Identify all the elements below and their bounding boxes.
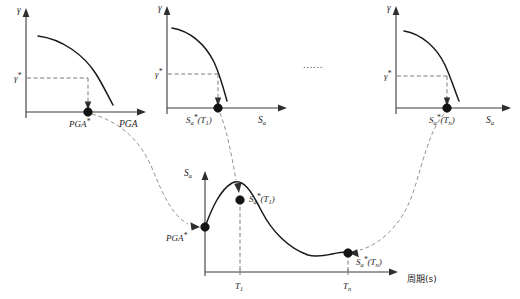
spectrum-point-label-satn: Sa*(Tn) (356, 255, 382, 269)
figure-root: γ PGA γ* PGA* γ Sa γ* (0, 0, 520, 299)
fragility-curve-sa-tn (404, 31, 459, 101)
panel-pga-y-axis-arrowhead (23, 8, 30, 17)
svg-text:γ*: γ* (14, 71, 22, 83)
panel-pga-x-axis-label: PGA (118, 119, 138, 129)
panel-pga-x-axis-arrowhead (137, 109, 146, 116)
svg-text:PGA*: PGA* (165, 231, 188, 243)
spectrum-y-axis-arrowhead (202, 171, 209, 180)
svg-text:Sa*(T1): Sa*(T1) (249, 192, 275, 206)
svg-text:Tn: Tn (343, 281, 351, 292)
panel-sa-tn-x-axis-label: Sa (486, 115, 494, 126)
spectrum-x-axis-label: 周期(s) (407, 274, 437, 284)
spectrum-point-label-pga: PGA* (165, 231, 188, 243)
marker-dot-spectrum-satn (344, 249, 353, 258)
panel-sa-tn-threshold-label: γ* (384, 69, 392, 81)
spectrum-x-axis-arrowhead (389, 269, 398, 276)
connector-satn-to-spectrum (349, 114, 444, 257)
diagram-canvas: γ PGA γ* PGA* γ Sa γ* (0, 0, 520, 299)
marker-dot-spectrum-sat1 (236, 196, 245, 205)
connector-path-satn (360, 114, 444, 250)
svg-text:Sa: Sa (184, 168, 192, 179)
svg-text:Sa: Sa (258, 115, 266, 126)
panel-sa-t1-point-label: Sa*(T1) (186, 113, 212, 127)
svg-text:T1: T1 (235, 281, 243, 292)
spectrum-curve (205, 182, 348, 256)
panel-sa-tn-point-label: Sa*(Tn) (429, 113, 455, 127)
svg-text:Sa*(Tn): Sa*(Tn) (429, 113, 455, 127)
svg-text:γ*: γ* (155, 67, 163, 79)
panel-sa-tn-x-axis-arrowhead (502, 105, 511, 112)
panel-pga: γ PGA γ* PGA* (14, 5, 146, 129)
svg-text:Sa*(Tn): Sa*(Tn) (356, 255, 382, 269)
marker-dot-sa-tn (443, 104, 452, 113)
connector-arrowhead-pga (190, 222, 200, 230)
panel-pga-y-axis-label: γ (17, 5, 21, 15)
spectrum-tick-label-t1: T1 (235, 281, 243, 292)
connector-path-pga (92, 114, 188, 224)
panel-sa-tn-y-axis-arrowhead (393, 6, 400, 15)
spectrum-point-label-sat1: Sa*(T1) (249, 192, 275, 206)
panel-sa-t1-y-axis-label: γ (158, 3, 162, 13)
connector-arrowhead-sat1 (234, 183, 242, 194)
marker-dot-sa-t1 (214, 104, 223, 113)
panel-sa-t1-x-axis-label: Sa (258, 115, 266, 126)
panel-pga-point-label: PGA* (68, 117, 91, 129)
panel-sa-t1-y-axis-arrowhead (164, 6, 171, 15)
panel-sa-t1-x-axis-arrowhead (278, 105, 287, 112)
connector-path-sat1 (220, 113, 236, 180)
svg-text:Sa: Sa (486, 115, 494, 126)
svg-text:Sa*(T1): Sa*(T1) (186, 113, 212, 127)
spectrum-tick-label-tn: Tn (343, 281, 351, 292)
panel-pga-threshold-label: γ* (14, 71, 22, 83)
spectrum-y-axis-label: Sa (184, 168, 192, 179)
fragility-curve-sa-t1 (172, 28, 227, 101)
panel-sa-t1: γ Sa γ* Sa*(T1) (155, 3, 287, 126)
panel-ellipsis: ...... (303, 58, 323, 70)
fragility-curve-pga (38, 36, 113, 105)
marker-dot-pga (84, 108, 93, 117)
panel-sa-tn: γ Sa γ* Sa*(Tn) (384, 3, 511, 126)
connector-sat1-to-spectrum (220, 113, 242, 193)
panel-sa-tn-y-axis-label: γ (387, 3, 391, 13)
marker-dot-spectrum-pga (201, 223, 210, 232)
svg-text:γ*: γ* (384, 69, 392, 81)
panel-response-spectrum: Sa 周期(s) PGA* Sa*(T1) Sa*(Tn) T1 Tn (165, 168, 437, 292)
panel-sa-t1-threshold-label: γ* (155, 67, 163, 79)
svg-text:PGA*: PGA* (68, 117, 91, 129)
